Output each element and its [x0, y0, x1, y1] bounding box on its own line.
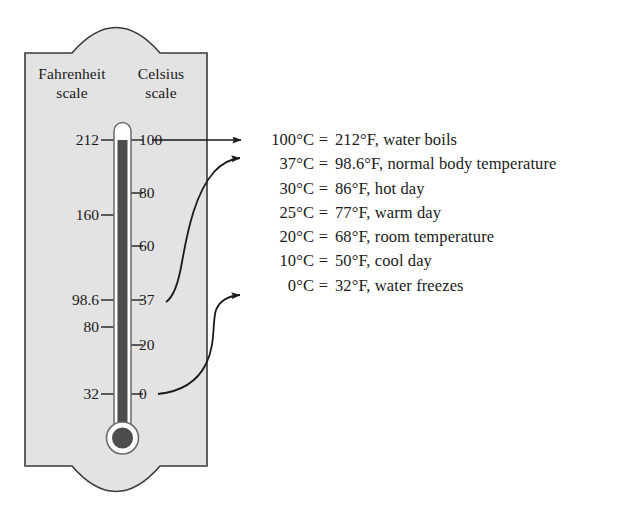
conversion-fahrenheit-value: 32°F, water freezes: [333, 276, 464, 296]
temperature-conversion-list: 100°C=212°F, water boils37°C=98.6°F, nor…: [246, 130, 556, 300]
conversion-fahrenheit-value: 68°F, room temperature: [333, 227, 494, 247]
conversion-row: 30°C=86°F, hot day: [246, 179, 556, 203]
fahrenheit-tick-160: 160: [41, 207, 99, 223]
conversion-celsius-value: 25°C: [246, 203, 314, 223]
celsius-tick-80: 80: [139, 185, 197, 201]
celsius-tick-60: 60: [139, 238, 197, 254]
conversion-row: 25°C=77°F, warm day: [246, 203, 556, 227]
fahrenheit-tick-80: 80: [41, 319, 99, 335]
conversion-fahrenheit-value: 212°F, water boils: [333, 130, 457, 150]
conversion-fahrenheit-value: 98.6°F, normal body temperature: [333, 154, 556, 174]
celsius-scale-header: Celsius scale: [126, 64, 196, 102]
fahrenheit-scale-header: Fahrenheit scale: [30, 64, 114, 102]
conversion-equals-sign: =: [314, 154, 333, 174]
conversion-row: 100°C=212°F, water boils: [246, 130, 556, 154]
conversion-row: 10°C=50°F, cool day: [246, 251, 556, 275]
thermometer-bulb-mercury: [112, 428, 133, 449]
conversion-equals-sign: =: [314, 251, 333, 271]
conversion-celsius-value: 30°C: [246, 179, 314, 199]
conversion-equals-sign: =: [314, 179, 333, 199]
conversion-fahrenheit-value: 86°F, hot day: [333, 179, 425, 199]
conversion-row: 0°C=32°F, water freezes: [246, 276, 556, 300]
celsius-header-line2: scale: [126, 83, 196, 102]
conversion-equals-sign: =: [314, 130, 333, 150]
thermometer-figure: Fahrenheit scale Celsius scale 21216098.…: [0, 0, 641, 524]
conversion-celsius-value: 20°C: [246, 227, 314, 247]
fahrenheit-tick-32: 32: [41, 386, 99, 402]
conversion-celsius-value: 0°C: [246, 276, 314, 296]
fahrenheit-header-line1: Fahrenheit: [30, 64, 114, 83]
conversion-celsius-value: 100°C: [246, 130, 314, 150]
mercury-column: [118, 140, 128, 440]
celsius-tick-37: 37: [139, 292, 197, 308]
conversion-row: 20°C=68°F, room temperature: [246, 227, 556, 251]
conversion-equals-sign: =: [314, 227, 333, 247]
conversion-equals-sign: =: [314, 203, 333, 223]
fahrenheit-header-line2: scale: [30, 83, 114, 102]
conversion-equals-sign: =: [314, 276, 333, 296]
conversion-celsius-value: 37°C: [246, 154, 314, 174]
conversion-row: 37°C=98.6°F, normal body temperature: [246, 154, 556, 178]
conversion-fahrenheit-value: 50°F, cool day: [333, 251, 432, 271]
celsius-header-line1: Celsius: [126, 64, 196, 83]
fahrenheit-tick-98-6: 98.6: [41, 292, 99, 308]
celsius-tick-20: 20: [139, 337, 197, 353]
celsius-tick-0: 0: [139, 386, 197, 402]
celsius-tick-100: 100: [139, 132, 197, 148]
conversion-celsius-value: 10°C: [246, 251, 314, 271]
conversion-fahrenheit-value: 77°F, warm day: [333, 203, 441, 223]
fahrenheit-tick-212: 212: [41, 132, 99, 148]
